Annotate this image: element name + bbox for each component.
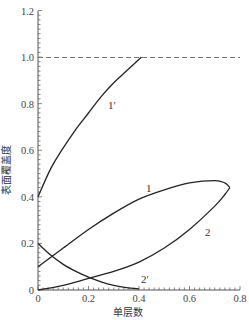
curve-label-2p: 2′ bbox=[141, 273, 149, 285]
series-1 bbox=[38, 181, 230, 267]
minor-ticks bbox=[38, 11, 240, 291]
x-tick-0: 0 bbox=[35, 293, 40, 304]
series-2 bbox=[38, 188, 230, 290]
curve-label-2: 2 bbox=[205, 226, 211, 238]
y-tick-0: 0 bbox=[29, 285, 34, 296]
y-tick-1.0: 1.0 bbox=[21, 52, 34, 63]
y-tick-labels: 0 0.2 0.4 0.6 0.8 1.0 1.2 bbox=[21, 6, 35, 296]
y-tick-0.8: 0.8 bbox=[21, 99, 34, 110]
x-tick-0.2: 0.2 bbox=[82, 293, 95, 304]
curve-label-1: 1 bbox=[146, 182, 152, 194]
x-tick-labels: 0 0.2 0.4 0.6 0.8 bbox=[35, 293, 246, 304]
curves bbox=[38, 57, 230, 290]
chart: 0 0.2 0.4 0.6 0.8 0 0.2 0.4 0.6 0.8 1.0 … bbox=[0, 0, 249, 320]
x-tick-0.4: 0.4 bbox=[132, 293, 146, 304]
y-axis-title: 表面覆盖度 bbox=[0, 145, 12, 195]
y-tick-1.2: 1.2 bbox=[21, 6, 34, 17]
y-tick-0.4: 0.4 bbox=[21, 192, 35, 203]
series-2p bbox=[38, 243, 139, 288]
y-tick-0.2: 0.2 bbox=[21, 238, 34, 249]
x-tick-0.6: 0.6 bbox=[183, 293, 196, 304]
y-tick-0.6: 0.6 bbox=[21, 145, 34, 156]
x-tick-0.8: 0.8 bbox=[233, 293, 246, 304]
series-1p bbox=[38, 57, 142, 197]
curve-label-1p: 1′ bbox=[108, 99, 116, 111]
axes bbox=[38, 11, 240, 290]
x-axis-title: 单层数 bbox=[113, 306, 143, 318]
